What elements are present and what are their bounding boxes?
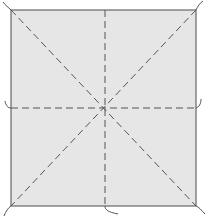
- tail-left-mid: [5, 101, 11, 108]
- crease-pattern-diagram: [0, 0, 208, 219]
- tail-bottom-right: [196, 206, 205, 214]
- tail-bottom-mid: [105, 206, 118, 214]
- tail-right-mid: [196, 99, 201, 108]
- tail-bottom-left: [4, 206, 11, 216]
- tail-top-left: [3, 2, 11, 10]
- tail-top-right: [196, 1, 203, 10]
